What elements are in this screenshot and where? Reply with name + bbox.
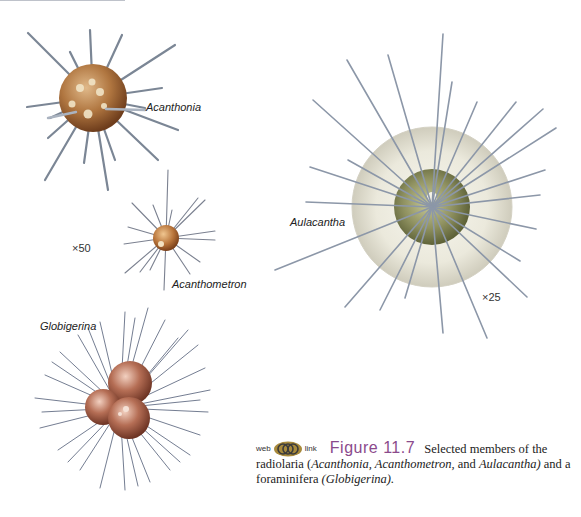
label-acanthometron: Acanthometron — [172, 278, 247, 290]
figure-caption: web link Figure 11.7 Selected members of… — [256, 440, 576, 487]
acanthometron-specimen — [124, 170, 215, 290]
caption-line2-pre: radiolaria ( — [256, 457, 311, 471]
caption-taxa-1: Acanthonia, Acanthometron, — [311, 457, 454, 471]
label-aulacantha: Aulacantha — [290, 216, 345, 228]
caption-lead: Selected members of the — [424, 442, 547, 456]
caption-line3-pre: foraminifera — [256, 472, 322, 486]
magnification-x25: ×25 — [482, 291, 501, 303]
web-label: web — [256, 441, 271, 456]
figure-number: Figure 11.7 — [330, 439, 415, 456]
aulacantha-specimen — [275, 34, 556, 338]
label-globigerina: Globigerina — [40, 320, 96, 332]
web-link-badge[interactable]: web link — [256, 441, 317, 457]
linked-rings-icon — [273, 441, 303, 457]
magnification-x50: ×50 — [72, 242, 91, 254]
caption-taxa-2: Aulacantha) — [479, 457, 541, 471]
caption-line2-post: and a — [541, 457, 571, 471]
label-acanthonia: Acanthonia — [146, 101, 201, 113]
caption-and: and — [455, 457, 479, 471]
link-label: link — [305, 441, 317, 456]
caption-taxa-3: (Globigerina). — [322, 472, 395, 486]
